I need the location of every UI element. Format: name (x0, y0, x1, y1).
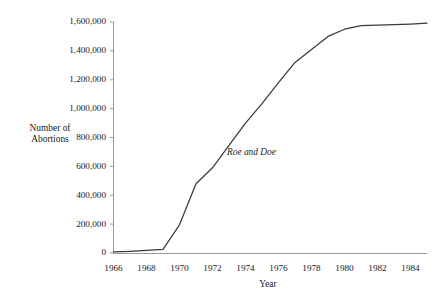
y-tick-label-400000: 400,000 (40, 191, 106, 200)
y-tick-label-1400000: 1,400,000 (40, 46, 106, 55)
x-axis-title: Year (238, 280, 298, 289)
y-tick-label-1600000: 1,600,000 (40, 17, 106, 26)
abortion-line-chart: Number of Abortions 1,600,000 1,400,000 … (0, 0, 442, 304)
y-tick-label-1200000: 1,200,000 (40, 75, 106, 84)
y-tick-label-600000: 600,000 (40, 162, 106, 171)
abortion-trend-line (114, 23, 428, 252)
y-tick-label-800000: 800,000 (40, 133, 106, 142)
x-tick-label-1984: 1984 (392, 264, 430, 273)
y-tick-label-200000: 200,000 (40, 220, 106, 229)
y-tick-label-0: 0 (40, 248, 106, 257)
chart-axes (110, 22, 427, 254)
roe-and-doe-annotation: Roe and Doe (227, 148, 276, 157)
y-tick-label-1000000: 1,000,000 (40, 104, 106, 113)
y-axis-tick-marks (110, 22, 114, 253)
